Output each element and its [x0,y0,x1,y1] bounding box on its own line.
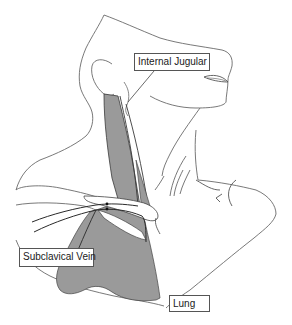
shoulder-lower-outline [16,203,100,212]
muscle-strand-1 [170,156,186,196]
leader-line-internal-jugular [128,71,154,102]
head-outline [16,15,104,190]
puncture-point-1 [106,203,109,206]
label-internal-jugular: Internal Jugular [134,53,210,71]
anatomy-diagram: Internal Jugular Subclavical Vein Lung [0,0,292,325]
muscle-strand-2 [174,170,183,196]
neck-front-outline [162,108,200,176]
trachea-line [195,130,198,180]
nerve-hook [155,218,160,234]
muscle-strand-4 [155,176,164,190]
anatomy-illustration [0,0,292,325]
ear-outline [92,60,114,96]
chin-outline [150,80,228,108]
jugular-vein-shape [104,94,140,206]
label-lung: Lung [169,295,210,312]
label-subclavical-vein: Subclavical Vein [19,248,94,267]
chest-outline [166,180,276,308]
nipple-mark [216,194,222,202]
puncture-point-2 [106,208,109,211]
